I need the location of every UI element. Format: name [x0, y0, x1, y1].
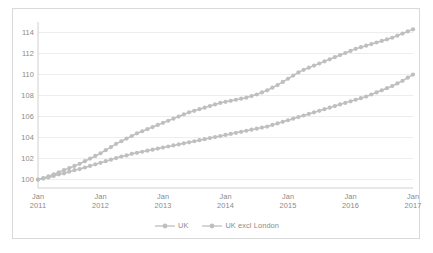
data-point-marker: [348, 49, 352, 53]
data-point-marker: [145, 149, 149, 153]
data-point-marker: [197, 138, 201, 142]
data-point-marker: [156, 147, 160, 151]
data-point-marker: [104, 159, 108, 163]
data-point-marker: [57, 172, 61, 176]
data-point-marker: [400, 31, 404, 35]
data-point-marker: [359, 45, 363, 49]
data-point-marker: [249, 128, 253, 132]
data-point-marker: [166, 144, 170, 148]
data-point-marker: [218, 134, 222, 138]
data-point-marker: [406, 76, 410, 80]
data-point-marker: [369, 42, 373, 46]
data-point-marker: [343, 51, 347, 55]
data-point-marker: [328, 106, 332, 110]
legend-label: UK: [178, 221, 188, 230]
data-point-marker: [395, 34, 399, 38]
data-point-marker: [359, 96, 363, 100]
data-point-marker: [109, 158, 113, 162]
x-tick-year: 2016: [331, 201, 371, 210]
data-point-marker: [124, 137, 128, 141]
data-point-marker: [260, 125, 264, 129]
data-point-marker: [156, 123, 160, 127]
data-point-marker: [177, 142, 181, 146]
data-point-marker: [161, 121, 165, 125]
x-tick-month: Jan: [268, 192, 308, 201]
data-point-marker: [400, 79, 404, 83]
x-tick-year: 2012: [81, 201, 121, 210]
data-point-marker: [312, 64, 316, 68]
data-point-marker: [265, 124, 269, 128]
data-point-marker: [234, 131, 238, 135]
data-point-marker: [78, 167, 82, 171]
data-point-marker: [302, 68, 306, 72]
line-chart-canvas: [0, 0, 433, 253]
y-tick-label: 102: [12, 154, 34, 163]
data-point-marker: [275, 121, 279, 125]
data-point-marker: [296, 70, 300, 74]
data-point-marker: [338, 102, 342, 106]
x-tick-label: Jan2013: [143, 192, 183, 211]
data-point-marker: [328, 57, 332, 61]
data-point-marker: [88, 164, 92, 168]
data-point-marker: [223, 100, 227, 104]
legend-item-2[interactable]: UK excl London: [201, 221, 279, 230]
data-point-marker: [286, 77, 290, 81]
data-point-marker: [317, 61, 321, 65]
data-point-marker: [312, 110, 316, 114]
data-point-marker: [203, 137, 207, 141]
data-point-marker: [98, 161, 102, 165]
data-point-marker: [374, 40, 378, 44]
data-point-marker: [255, 92, 259, 96]
x-tick-month: Jan: [206, 192, 246, 201]
data-point-marker: [72, 164, 76, 168]
data-point-marker: [411, 72, 415, 76]
data-point-marker: [244, 129, 248, 133]
data-point-marker: [130, 152, 134, 156]
data-point-marker: [104, 148, 108, 152]
data-point-marker: [338, 53, 342, 57]
data-point-marker: [135, 151, 139, 155]
data-point-marker: [380, 88, 384, 92]
data-point-marker: [307, 66, 311, 70]
data-point-marker: [72, 168, 76, 172]
data-point-marker: [218, 101, 222, 105]
x-tick-label: Jan2016: [331, 192, 371, 211]
data-point-marker: [354, 47, 358, 51]
x-tick-month: Jan: [18, 192, 58, 201]
data-point-marker: [270, 86, 274, 90]
data-point-marker: [229, 99, 233, 103]
legend-marker-icon: [154, 222, 176, 230]
x-tick-year: 2013: [143, 201, 183, 210]
x-tick-month: Jan: [143, 192, 183, 201]
data-point-marker: [83, 159, 87, 163]
legend-item-1[interactable]: UK: [154, 221, 188, 230]
x-tick-label: Jan2014: [206, 192, 246, 211]
x-tick-label: Jan2011: [18, 192, 58, 211]
data-point-marker: [354, 98, 358, 102]
data-point-marker: [93, 162, 97, 166]
data-point-marker: [197, 107, 201, 111]
data-point-marker: [234, 98, 238, 102]
data-point-marker: [322, 59, 326, 63]
data-point-marker: [322, 107, 326, 111]
data-point-marker: [333, 104, 337, 108]
chart-figure: 100102104106108110112114 Jan2011Jan2012J…: [0, 0, 433, 253]
data-point-marker: [374, 90, 378, 94]
data-point-marker: [166, 119, 170, 123]
x-tick-month: Jan: [331, 192, 371, 201]
data-point-marker: [406, 29, 410, 33]
data-point-marker: [385, 37, 389, 41]
data-point-marker: [239, 130, 243, 134]
data-point-marker: [41, 176, 45, 180]
y-tick-label: 112: [12, 49, 34, 58]
data-point-marker: [88, 156, 92, 160]
data-point-marker: [364, 94, 368, 98]
chart-legend: UKUK excl London: [0, 221, 433, 230]
data-point-marker: [135, 131, 139, 135]
data-point-marker: [171, 117, 175, 121]
data-point-marker: [302, 113, 306, 117]
y-tick-label: 100: [12, 175, 34, 184]
data-point-marker: [260, 90, 264, 94]
data-point-marker: [67, 170, 71, 174]
data-point-marker: [52, 174, 56, 178]
